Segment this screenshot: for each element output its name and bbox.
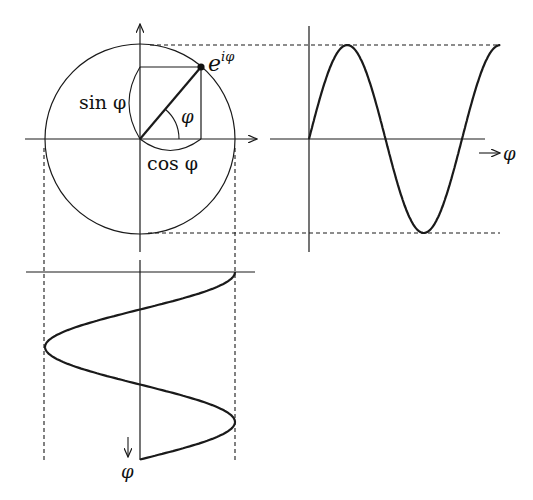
angle-arc [165, 109, 179, 139]
sin-label: sin φ [79, 91, 126, 113]
sin-brace [129, 67, 140, 139]
sine-axis-label: φ [503, 143, 516, 164]
sine-plot [270, 26, 500, 252]
point-marker [197, 63, 204, 70]
cos-label: cos φ [147, 152, 198, 174]
euler-diagram: eiφ sin φ φ cos φ φ φ [0, 0, 533, 500]
cosine-plot [26, 260, 255, 460]
point-label: eiφ [208, 49, 235, 76]
angle-label: φ [181, 106, 194, 127]
radius-vector [140, 67, 201, 139]
cosine-axis-label: φ [121, 461, 134, 482]
cos-brace [140, 139, 201, 151]
